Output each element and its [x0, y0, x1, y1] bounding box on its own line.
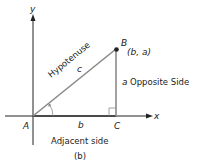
adjacent-side-label: Adjacent side — [51, 136, 108, 146]
opposite-side-label: Opposite Side — [130, 77, 189, 87]
point-b-dot — [114, 47, 119, 52]
x-axis-arrow-icon — [146, 114, 153, 119]
figure-caption: (b) — [74, 151, 86, 161]
adjacent-symbol: b — [78, 120, 84, 130]
point-b-coords: (b, a) — [127, 47, 151, 57]
y-axis-arrow-icon — [31, 14, 36, 21]
right-angle-marker — [109, 108, 116, 116]
point-c-label: C — [114, 121, 121, 131]
hypotenuse-symbol: c — [77, 64, 82, 74]
right-triangle-diagram: y x B (b, a) Hypotenuse c a Opposite Sid… — [0, 0, 200, 166]
opposite-symbol: a — [122, 77, 128, 87]
x-axis-label: x — [153, 111, 160, 121]
angle-arc — [50, 105, 54, 116]
y-axis-label: y — [29, 4, 36, 14]
point-a-label: A — [22, 121, 29, 131]
